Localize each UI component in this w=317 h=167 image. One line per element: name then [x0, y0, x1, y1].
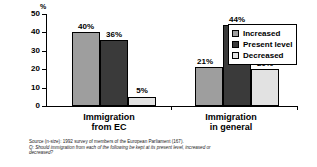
y-tick-0: [42, 106, 46, 107]
category-label-general-line2: in general: [168, 122, 294, 132]
bar-chart: 50 40 30 20 10 0 % 40% 36% 5% 21% 44% 20: [0, 0, 317, 167]
category-label-ec: Immigration from EC: [46, 112, 172, 132]
y-tick-label-10: 10: [18, 83, 40, 92]
y-tick-label-30: 30: [18, 46, 40, 55]
footnote: Source (n-size): 1992 survey of members …: [29, 139, 279, 156]
y-tick-label-20: 20: [18, 64, 40, 73]
legend-label-decreased: Decreased: [243, 51, 283, 60]
y-tick-30: [42, 51, 46, 52]
y-tick-10: [42, 88, 46, 89]
legend-item-increased: Increased: [232, 28, 292, 39]
x-tick-right: [297, 106, 298, 110]
legend-item-present-level: Present level: [232, 39, 292, 50]
category-label-general: Immigration in general: [168, 112, 294, 132]
y-axis-line: [46, 14, 47, 106]
legend-item-decreased: Decreased: [232, 50, 292, 61]
y-tick-label-50: 50: [18, 9, 40, 18]
footnote-line-3: decreased?: [29, 150, 279, 156]
bar-gen-increased: [195, 67, 223, 106]
legend-label-increased: Increased: [243, 29, 280, 38]
category-label-general-line1: Immigration: [168, 112, 294, 122]
x-axis-line: [46, 106, 298, 107]
x-tick-mid: [171, 106, 172, 110]
bar-value-ec-decreased: 5%: [128, 86, 156, 95]
legend: Increased Present level Decreased: [228, 24, 297, 65]
y-tick-20: [42, 69, 46, 70]
legend-swatch-decreased-icon: [232, 52, 239, 59]
y-axis-labels: 50 40 30 20 10 0: [0, 14, 40, 106]
y-axis-unit-label: %: [40, 3, 46, 10]
bar-value-gen-present: 44%: [223, 15, 251, 24]
bar-ec-increased: [72, 32, 100, 106]
legend-swatch-increased-icon: [232, 30, 239, 37]
y-tick-label-40: 40: [18, 27, 40, 36]
bar-value-gen-increased: 21%: [191, 57, 219, 66]
category-label-ec-line1: Immigration: [46, 112, 172, 122]
bar-ec-present: [100, 40, 128, 106]
y-tick-label-0: 0: [18, 101, 40, 110]
y-tick-50: [42, 14, 46, 15]
legend-label-present-level: Present level: [243, 40, 292, 49]
bar-ec-decreased: [128, 97, 156, 106]
bar-value-ec-present: 36%: [100, 30, 128, 39]
bar-value-ec-increased: 40%: [72, 22, 100, 31]
legend-swatch-present-level-icon: [232, 41, 239, 48]
category-label-ec-line2: from EC: [46, 122, 172, 132]
bar-gen-decreased: [251, 69, 279, 106]
y-tick-40: [42, 32, 46, 33]
